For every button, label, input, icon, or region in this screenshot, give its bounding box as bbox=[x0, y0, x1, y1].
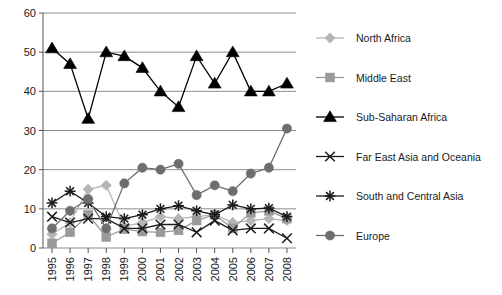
x-tick-label: 1997 bbox=[82, 257, 94, 281]
series-line bbox=[52, 48, 287, 119]
marker-triangle bbox=[46, 42, 59, 53]
legend-item-far-east-asia-and-oceania[interactable]: Far East Asia and Oceania bbox=[316, 151, 481, 163]
marker-asterisk bbox=[227, 200, 238, 211]
triangle-marker bbox=[244, 85, 257, 96]
diamond-marker bbox=[83, 184, 93, 194]
series-sub-saharan-africa bbox=[46, 42, 294, 123]
diamond-marker bbox=[101, 180, 111, 190]
x-tick-label: 2007 bbox=[263, 257, 275, 281]
triangle-marker bbox=[226, 46, 239, 57]
circle-marker bbox=[246, 169, 255, 178]
triangle-marker bbox=[82, 113, 95, 124]
chart-container: 0102030405060199519961997199819992000200… bbox=[0, 0, 502, 295]
x-tick-label: 2008 bbox=[281, 257, 293, 281]
circle-marker bbox=[102, 224, 111, 233]
marker-square bbox=[156, 228, 165, 237]
circle-marker bbox=[66, 206, 75, 215]
triangle-marker bbox=[190, 50, 203, 61]
marker-cross bbox=[47, 212, 57, 222]
square-marker bbox=[326, 73, 335, 82]
marker-cross bbox=[282, 233, 292, 243]
marker-asterisk bbox=[263, 203, 274, 214]
square-marker bbox=[48, 239, 57, 248]
marker-triangle bbox=[281, 77, 294, 88]
triangle-marker bbox=[262, 85, 275, 96]
x-tick-label: 1999 bbox=[118, 257, 130, 281]
marker-asterisk bbox=[155, 203, 166, 214]
marker-cross bbox=[192, 228, 202, 238]
marker-circle bbox=[84, 194, 93, 203]
marker-triangle bbox=[226, 46, 239, 57]
marker-diamond bbox=[173, 213, 183, 223]
x-tick-label: 2001 bbox=[154, 257, 166, 281]
x-tick-label: 1998 bbox=[100, 257, 112, 281]
marker-triangle bbox=[324, 111, 337, 122]
marker-square bbox=[326, 73, 335, 82]
x-tick-label: 2004 bbox=[209, 257, 221, 281]
marker-circle bbox=[102, 224, 111, 233]
circle-marker bbox=[138, 163, 147, 172]
circle-marker bbox=[156, 165, 165, 174]
legend-item-south-and-central-asia[interactable]: South and Central Asia bbox=[316, 190, 464, 202]
marker-asterisk bbox=[191, 205, 202, 216]
x-tick-label: 2005 bbox=[227, 257, 239, 281]
legend-label: South and Central Asia bbox=[356, 190, 464, 202]
marker-triangle bbox=[136, 62, 149, 73]
marker-asterisk bbox=[245, 203, 256, 214]
circle-marker bbox=[210, 181, 219, 190]
x-tick-label: 2003 bbox=[191, 257, 203, 281]
square-marker bbox=[192, 216, 201, 225]
circle-marker bbox=[264, 163, 273, 172]
triangle-marker bbox=[100, 46, 113, 57]
circle-marker bbox=[174, 159, 183, 168]
legend-item-europe[interactable]: Europe bbox=[316, 230, 390, 242]
marker-circle bbox=[47, 224, 56, 233]
marker-triangle bbox=[100, 46, 113, 57]
legend-item-sub-saharan-africa[interactable]: Sub-Saharan Africa bbox=[316, 111, 447, 123]
x-tick-label: 1995 bbox=[46, 257, 58, 281]
y-tick-label: 60 bbox=[24, 7, 36, 19]
x-axis: 1995199619971998199920002001200220032004… bbox=[46, 248, 293, 281]
marker-circle bbox=[120, 179, 129, 188]
triangle-marker bbox=[136, 62, 149, 73]
marker-circle bbox=[138, 163, 147, 172]
square-marker bbox=[102, 233, 111, 242]
x-tick-label: 1996 bbox=[64, 257, 76, 281]
marker-asterisk bbox=[119, 213, 130, 224]
legend-label: North Africa bbox=[356, 32, 411, 44]
legend-item-north-africa[interactable]: North Africa bbox=[316, 32, 411, 44]
marker-circle bbox=[156, 165, 165, 174]
marker-square bbox=[48, 239, 57, 248]
marker-circle bbox=[192, 191, 201, 200]
marker-triangle bbox=[208, 77, 221, 88]
marker-asterisk bbox=[137, 209, 148, 220]
circle-marker bbox=[47, 224, 56, 233]
x-tick-label: 2002 bbox=[173, 257, 185, 281]
legend: North AfricaMiddle EastSub-Saharan Afric… bbox=[316, 32, 481, 242]
circle-marker bbox=[84, 194, 93, 203]
legend-item-middle-east[interactable]: Middle East bbox=[316, 72, 411, 84]
triangle-marker bbox=[324, 111, 337, 122]
y-tick-label: 10 bbox=[24, 203, 36, 215]
line-chart: 0102030405060199519961997199819992000200… bbox=[0, 0, 502, 295]
legend-label: Europe bbox=[356, 230, 390, 242]
triangle-marker bbox=[46, 42, 59, 53]
y-tick-label: 20 bbox=[24, 164, 36, 176]
y-tick-label: 0 bbox=[30, 242, 36, 254]
marker-square bbox=[102, 233, 111, 242]
marker-square bbox=[192, 216, 201, 225]
diamond-marker bbox=[325, 33, 335, 43]
square-marker bbox=[66, 228, 75, 237]
marker-triangle bbox=[244, 85, 257, 96]
marker-circle bbox=[210, 181, 219, 190]
triangle-marker bbox=[154, 85, 167, 96]
marker-asterisk bbox=[282, 211, 293, 222]
marker-square bbox=[66, 228, 75, 237]
triangle-marker bbox=[281, 77, 294, 88]
marker-asterisk bbox=[65, 186, 76, 197]
marker-triangle bbox=[154, 85, 167, 96]
marker-asterisk bbox=[47, 198, 58, 209]
y-tick-label: 30 bbox=[24, 125, 36, 137]
marker-circle bbox=[246, 169, 255, 178]
legend-label: Sub-Saharan Africa bbox=[356, 111, 447, 123]
